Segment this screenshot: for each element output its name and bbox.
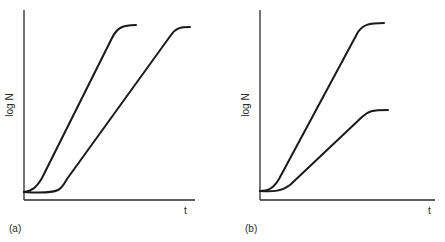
panel-a-label: (a) [9, 224, 21, 234]
panel-b-x-axis-label: t [428, 206, 431, 216]
panel-b [260, 10, 435, 200]
panel-b-curve-1 [260, 23, 384, 191]
panel-a-curve-2 [24, 27, 190, 193]
panel-a-y-axis-label: log N [5, 93, 15, 116]
panel-a-x-axis-label: t [184, 206, 187, 216]
panel-b-y-axis-label: log N [241, 93, 251, 116]
panel-a [24, 10, 195, 200]
panel-b-label: (b) [245, 224, 257, 234]
growth-curves-figure [0, 0, 445, 242]
panel-a-curve-1 [24, 25, 136, 192]
